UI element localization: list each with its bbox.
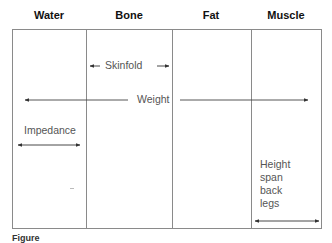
- height-span-line-4: legs: [260, 197, 290, 210]
- column-divider-fat-muscle: [251, 29, 252, 229]
- height-span-line-1: Height: [260, 158, 290, 171]
- column-header-muscle: Muscle: [267, 9, 304, 21]
- column-divider-bone-fat: [172, 29, 173, 229]
- impedance-label: Impedance: [24, 124, 76, 136]
- column-header-water: Water: [34, 9, 64, 21]
- height-span-line-2: span: [260, 171, 290, 184]
- height-span-back-legs-label: Height span back legs: [260, 158, 290, 210]
- column-header-bone: Bone: [115, 9, 143, 21]
- column-divider-water-bone: [86, 29, 87, 229]
- weight-label: Weight: [137, 93, 170, 105]
- stray-mark: [70, 188, 74, 189]
- column-header-fat: Fat: [203, 9, 220, 21]
- caption-prefix: Figure: [12, 233, 40, 243]
- figure-caption: Figure: [12, 233, 40, 243]
- height-span-line-3: back: [260, 184, 290, 197]
- skinfold-label: Skinfold: [105, 59, 142, 71]
